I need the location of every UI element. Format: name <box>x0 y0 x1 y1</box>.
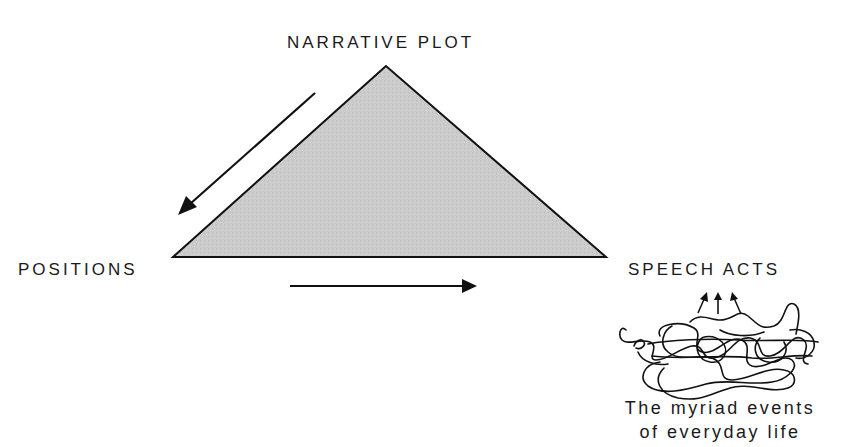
arrow-positions-to-speech-acts <box>290 279 477 293</box>
vertex-label-narrative-plot: NARRATIVE PLOT <box>287 33 474 53</box>
arrows-events-to-speech-acts <box>698 292 741 314</box>
vertex-label-speech-acts: SPEECH ACTS <box>628 260 780 280</box>
scribble-everyday-events <box>620 304 818 400</box>
vertex-label-positions: POSITIONS <box>18 260 138 280</box>
diagram-canvas <box>0 0 843 447</box>
caption-everyday-events: The myriad events of everyday life <box>600 396 840 444</box>
caption-line-1: The myriad events <box>600 396 840 420</box>
caption-line-2: of everyday life <box>600 420 840 444</box>
